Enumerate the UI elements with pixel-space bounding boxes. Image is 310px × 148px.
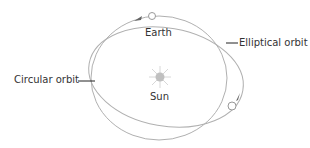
elliptical-orbit-label: Elliptical orbit xyxy=(239,38,308,48)
earth-right-icon xyxy=(228,102,236,110)
sun-label: Sun xyxy=(150,92,169,102)
orbit-direction-arrow-top-icon xyxy=(134,16,142,21)
earth-top-icon xyxy=(149,13,156,20)
circular-orbit-label: Circular orbit xyxy=(14,75,79,85)
earth-label: Earth xyxy=(145,28,172,38)
sun-core xyxy=(156,73,165,82)
